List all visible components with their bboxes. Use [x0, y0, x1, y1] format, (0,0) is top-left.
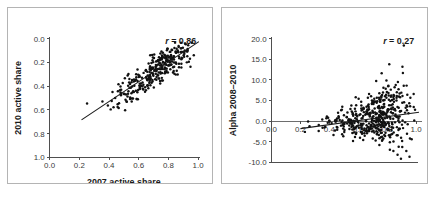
data-point: [360, 117, 362, 119]
data-point: [379, 100, 381, 102]
data-point: [304, 131, 306, 133]
data-point: [124, 77, 126, 79]
data-point: [161, 58, 163, 60]
data-point: [371, 102, 373, 104]
data-point: [389, 100, 391, 102]
data-point: [337, 116, 339, 118]
data-point: [139, 85, 141, 87]
data-point: [375, 121, 377, 123]
data-point: [177, 51, 179, 53]
data-point: [353, 128, 355, 130]
data-point: [396, 126, 398, 128]
data-point: [357, 124, 359, 126]
data-point: [159, 82, 161, 84]
data-point: [368, 93, 370, 95]
data-point: [346, 116, 348, 118]
data-point: [324, 126, 326, 128]
data-point: [399, 110, 401, 112]
data-point: [388, 125, 390, 127]
scatter-points: [86, 41, 195, 111]
data-point: [357, 121, 359, 123]
data-point: [362, 106, 364, 108]
data-point: [360, 101, 362, 103]
data-point: [388, 94, 390, 96]
data-point: [405, 84, 407, 86]
data-point: [401, 119, 403, 121]
data-point: [348, 124, 350, 126]
data-point: [354, 117, 356, 119]
data-point: [363, 135, 365, 137]
data-point: [343, 114, 345, 116]
data-point: [157, 59, 159, 61]
data-point: [382, 87, 384, 89]
data-point: [401, 140, 403, 142]
y-tick-label: 0.6: [34, 106, 46, 115]
data-point: [354, 110, 356, 112]
data-point: [341, 108, 343, 110]
data-point: [171, 49, 173, 51]
data-point: [392, 94, 394, 96]
data-point: [406, 123, 408, 125]
y-tick-label: 0.0: [34, 35, 46, 44]
data-point: [170, 64, 172, 66]
correlation-value: = 0.27: [387, 36, 415, 46]
data-point: [384, 122, 386, 124]
data-point: [401, 95, 403, 97]
data-point: [148, 81, 150, 83]
data-point: [118, 89, 120, 91]
data-point: [397, 146, 399, 148]
data-point: [388, 129, 390, 131]
y-tick-label: -10.0: [249, 158, 268, 167]
data-point: [388, 123, 390, 125]
data-point: [351, 132, 353, 134]
data-point: [359, 136, 361, 138]
y-tick-label: 0.2: [34, 58, 45, 67]
y-tick-label: 0.4: [34, 82, 46, 91]
data-point: [388, 134, 390, 136]
data-point: [116, 106, 118, 108]
y-axis-title: Alpha 2008–2010: [228, 65, 238, 137]
data-point: [169, 55, 171, 57]
data-point: [390, 107, 392, 109]
data-point: [141, 81, 143, 83]
data-point: [130, 92, 132, 94]
data-point: [394, 121, 396, 123]
data-point: [398, 121, 400, 123]
x-tick-label: 0.4: [104, 161, 116, 170]
data-point: [340, 124, 342, 126]
data-point: [180, 62, 182, 64]
x-tick-label: 0.0: [44, 161, 56, 170]
data-point: [389, 148, 391, 150]
data-point: [348, 128, 350, 130]
data-point: [150, 69, 152, 71]
data-point: [169, 51, 171, 53]
data-point: [164, 57, 166, 59]
data-point: [373, 107, 375, 109]
data-point: [376, 123, 378, 125]
data-point: [414, 108, 416, 110]
data-point: [189, 66, 191, 68]
data-point: [373, 125, 375, 127]
data-point: [183, 56, 185, 58]
data-point: [390, 129, 392, 131]
data-point: [139, 87, 141, 89]
data-point: [150, 62, 152, 64]
data-point: [155, 60, 157, 62]
data-point: [350, 123, 352, 125]
data-point: [375, 80, 377, 82]
data-point: [360, 131, 362, 133]
data-point: [381, 136, 383, 138]
data-point: [136, 91, 138, 93]
data-point: [378, 98, 380, 100]
data-point: [412, 106, 414, 108]
data-point: [178, 66, 180, 68]
data-point: [86, 102, 88, 104]
data-point: [117, 83, 119, 85]
scatter-plot-right: -10.0-5.00.05.010.015.020.00.00.20.40.60…: [222, 8, 427, 183]
data-point: [398, 128, 400, 130]
data-point: [391, 103, 393, 105]
data-point: [386, 91, 388, 93]
data-point: [393, 86, 395, 88]
data-point: [404, 106, 406, 108]
x-axis-title: 2007 active share: [307, 182, 381, 183]
